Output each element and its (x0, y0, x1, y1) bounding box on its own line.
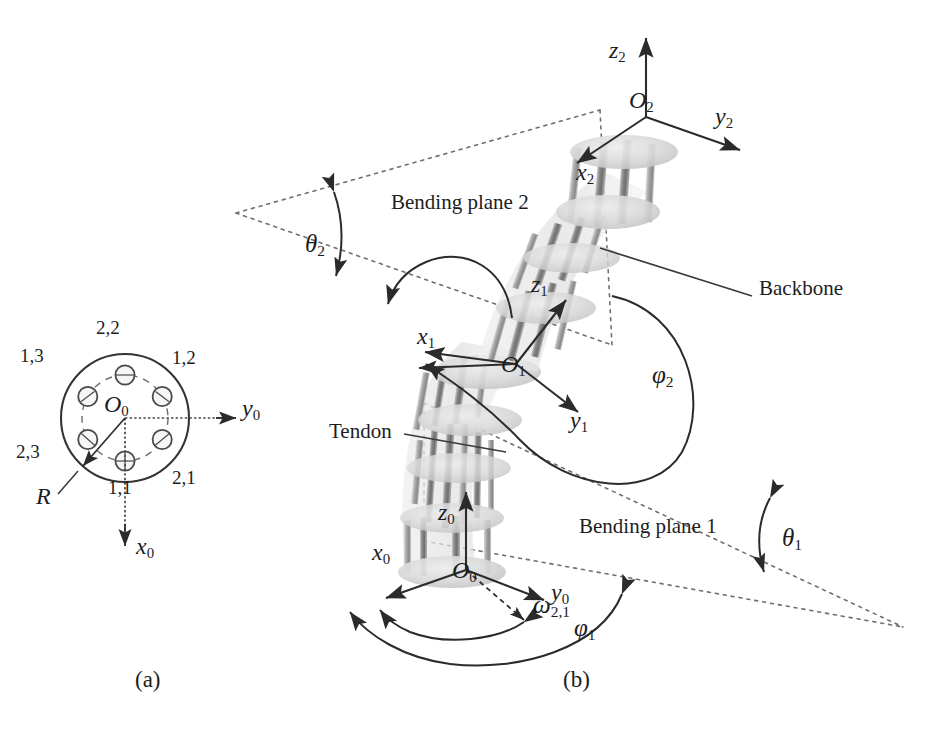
diagram-vector-layer (0, 0, 935, 736)
axis-z1-label: z1 (531, 272, 548, 299)
xsec-origin-label: O0 (104, 392, 129, 419)
theta1-angle-arc (759, 498, 770, 572)
backbone-label: Backbone (759, 278, 843, 299)
cross-section-group (58, 354, 236, 546)
tendon-label: Tendon (329, 421, 392, 442)
bending-plane-2-label: Bending plane 2 (391, 192, 529, 213)
xsec-label-1-3: 1,3 (20, 346, 44, 365)
axis-x1-label: x1 (417, 324, 435, 351)
disk-s1-c (418, 404, 522, 436)
caption-b: (b) (563, 668, 590, 691)
disk-s1-b (407, 453, 511, 483)
disk-s2-b (524, 243, 620, 273)
origin-O0-label: O0 (452, 558, 477, 585)
axis-z0-label: z0 (438, 500, 455, 527)
axis-z2-label: z2 (609, 38, 626, 65)
theta1-label: θ1 (782, 525, 802, 553)
xsec-radius-label: R (36, 484, 51, 508)
origin-O1-label: O1 (501, 352, 526, 379)
bending-plane-1-label: Bending plane 1 (579, 516, 717, 537)
origin-O2-label: O2 (629, 88, 654, 115)
caption-a: (a) (135, 668, 161, 691)
figure-canvas: 2,2 1,3 1,2 2,3 2,1 1,1 O0 y0 x0 R z2 O2… (0, 0, 935, 736)
xsec-label-1-1: 1,1 (108, 478, 132, 497)
xsec-label-2-1: 2,1 (172, 468, 196, 487)
phi1-label: φ1 (574, 615, 596, 643)
xsec-label-2-2: 2,2 (96, 318, 120, 337)
omega-2-1-label: ω2,1 (533, 592, 570, 620)
xsec-axis-y0-label: y0 (242, 396, 260, 423)
backbone-leader-line (600, 248, 752, 296)
xsec-label-2-3: 2,3 (16, 442, 40, 461)
axis-x0-label: x0 (372, 540, 390, 567)
axis-y1-label: y1 (570, 408, 588, 435)
xsec-label-1-2: 1,2 (172, 348, 196, 367)
axis-x2-label: x2 (576, 160, 594, 187)
theta2-label: θ2 (305, 231, 325, 259)
axis-y2-label: y2 (715, 104, 733, 131)
phi2-label: φ2 (652, 362, 674, 390)
xsec-axis-x0-label: x0 (136, 534, 154, 561)
theta2-angle-arc (334, 192, 342, 276)
disk-s2-c (556, 195, 660, 229)
